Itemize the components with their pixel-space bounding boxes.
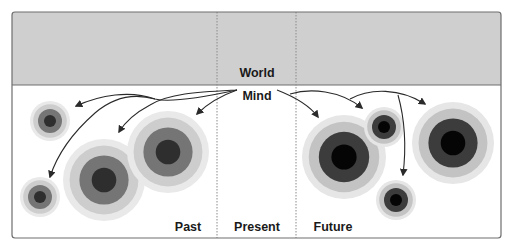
circle-future-small-bottom — [376, 180, 416, 220]
mind-world-diagram: World Mind Past Present Future — [0, 0, 514, 251]
ring-3 — [390, 194, 402, 206]
present-label: Present — [234, 220, 281, 234]
ring-3 — [156, 140, 181, 165]
ring-3 — [331, 144, 356, 169]
ring-3 — [92, 168, 117, 193]
circle-past-small-bottom — [20, 177, 60, 217]
circle-past-small-top — [30, 101, 70, 141]
circle-future-small-top — [364, 107, 404, 147]
ring-3 — [44, 115, 56, 127]
ring-3 — [441, 131, 466, 156]
world-label: World — [239, 66, 274, 80]
future-label: Future — [314, 220, 353, 234]
ring-3 — [34, 191, 46, 203]
circle-past-large-right — [127, 111, 209, 193]
mind-label: Mind — [242, 89, 271, 103]
circle-future-large-right — [412, 102, 494, 184]
ring-3 — [378, 121, 390, 133]
past-label: Past — [175, 220, 202, 234]
